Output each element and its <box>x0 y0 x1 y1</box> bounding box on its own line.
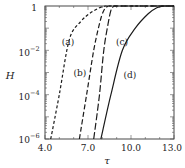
y-axis-title: H <box>5 70 15 81</box>
curve-label-d: (d) <box>124 70 137 80</box>
x-axis-title: τ <box>104 155 110 166</box>
curves <box>51 6 174 139</box>
ytick-label-1e-2: 10 −2 <box>19 45 40 58</box>
svg-text:10: 10 <box>19 135 31 145</box>
ytick-label-1e-4: 10 −4 <box>19 89 40 102</box>
svg-text:−6: −6 <box>30 132 40 140</box>
curve-label-a: (a) <box>62 37 74 47</box>
xtick-label-10: 10.0 <box>121 143 141 153</box>
curve-label-c: (c) <box>116 37 128 47</box>
xtick-label-4: 4.0 <box>38 143 53 153</box>
svg-text:10: 10 <box>19 92 31 102</box>
ytick-label-1e-6: 10 −6 <box>19 132 40 145</box>
xtick-label-13: 13.0 <box>162 143 182 153</box>
svg-text:−2: −2 <box>30 45 40 53</box>
ytick-label-1: 1 <box>31 3 37 13</box>
curve-label-b: (b) <box>74 68 87 78</box>
curve-d <box>101 6 174 139</box>
svg-text:−4: −4 <box>30 89 40 97</box>
axis-ticks <box>45 6 174 139</box>
plot-frame <box>45 6 174 139</box>
chart: 1 10 −2 10 −4 10 −6 4.0 7.0 10.0 13.0 τ … <box>0 0 185 168</box>
curve-a <box>51 6 174 139</box>
svg-text:10: 10 <box>19 48 31 58</box>
xtick-label-7: 7.0 <box>81 143 96 153</box>
